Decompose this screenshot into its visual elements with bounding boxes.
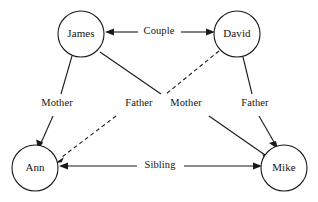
edge-james-mike-segment-upper (100, 52, 161, 94)
edge-james-ann-segment-upper (61, 56, 72, 94)
edge-david-mike-segment-lower (259, 116, 274, 142)
edge-ann-mike-sibling[interactable]: Sibling (59, 159, 262, 170)
edge-couple[interactable]: Couple (105, 25, 215, 36)
edge-label-james-mike-mother: Mother (170, 97, 202, 108)
node-david-label: David (223, 27, 251, 39)
edge-label-couple: Couple (144, 25, 175, 36)
edge-label-ann-mike-sibling: Sibling (144, 159, 176, 170)
node-david[interactable]: David (214, 11, 260, 57)
edge-james-ann-mother[interactable]: Mother (36, 56, 73, 150)
edge-david-mike-father[interactable]: Father (241, 57, 278, 149)
edge-label-david-ann-father: Father (125, 97, 153, 108)
arrow-head-sibling-to-ann (59, 163, 68, 170)
edge-james-ann-segment-lower (41, 116, 53, 143)
edge-label-james-ann-mother: Mother (41, 97, 73, 108)
edge-david-ann-segment-lower (62, 116, 116, 157)
family-relationship-graph: Couple Mother Father Mother (0, 0, 318, 202)
node-ann-label: Ann (25, 161, 45, 173)
arrow-head-couple-to-james (105, 29, 114, 36)
edge-label-david-mike-father: Father (241, 97, 269, 108)
edge-james-mike-segment-lower (209, 116, 265, 155)
node-ann[interactable]: Ann (12, 145, 58, 191)
node-mike[interactable]: Mike (261, 145, 307, 191)
diagram-canvas: Couple Mother Father Mother (0, 0, 318, 202)
node-mike-label: Mike (272, 161, 296, 173)
node-james-label: James (67, 27, 94, 39)
edge-david-ann-segment-upper (166, 51, 219, 94)
node-james[interactable]: James (58, 11, 104, 57)
edge-david-mike-segment-upper (243, 57, 252, 94)
